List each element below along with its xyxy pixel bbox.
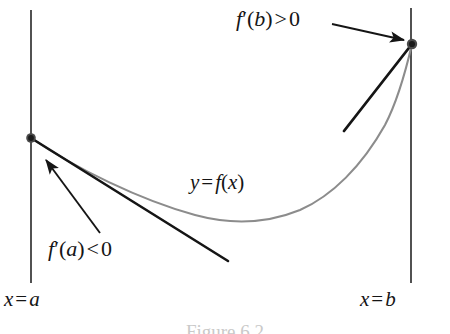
label-x-equals-b: x=b <box>360 289 396 310</box>
label-curve-close: ) <box>237 170 244 194</box>
label-x-equals-a: x=a <box>4 289 40 310</box>
label-fprime-a-operator: < <box>85 236 101 261</box>
endpoint-dot-a-core <box>28 135 34 141</box>
arrow-to-point-a-icon <box>46 160 100 233</box>
label-x-equals-a-var: x <box>4 287 13 311</box>
label-fprime-a: f′(a)<0 <box>48 238 112 260</box>
label-fprime-b-close: ) <box>265 6 272 31</box>
label-fprime-b-value: 0 <box>289 6 300 31</box>
label-curve-arg: x <box>228 170 237 194</box>
label-fprime-b-arg: b <box>254 6 265 31</box>
label-x-equals-b-var: x <box>360 287 369 311</box>
label-x-equals-b-value: b <box>385 287 396 311</box>
label-fprime-b: f′(b)>0 <box>236 8 300 30</box>
label-x-equals-a-operator: = <box>13 287 29 311</box>
arrow-to-point-b-icon <box>332 24 404 40</box>
figure-caption: Figure 6.2 <box>0 321 450 334</box>
label-fprime-a-arg: a <box>66 236 77 261</box>
label-fprime-a-value: 0 <box>101 236 112 261</box>
label-fprime-a-close: ) <box>77 236 84 261</box>
label-x-equals-b-operator: = <box>369 287 385 311</box>
figure-graphics <box>0 0 450 334</box>
label-curve-lhs: y <box>190 170 199 194</box>
label-fprime-b-operator: > <box>273 6 289 31</box>
label-curve-equation: y=f(x) <box>190 172 244 193</box>
figure-container: f′(b)>0 f′(a)<0 y=f(x) x=a x=b Figure 6.… <box>0 0 450 334</box>
endpoint-dot-b-core <box>409 41 415 47</box>
label-curve-operator: = <box>199 170 215 194</box>
label-x-equals-a-value: a <box>29 287 40 311</box>
label-curve-open: ( <box>221 170 228 194</box>
function-curve <box>31 44 412 221</box>
tangent-line-at-b <box>344 44 412 131</box>
